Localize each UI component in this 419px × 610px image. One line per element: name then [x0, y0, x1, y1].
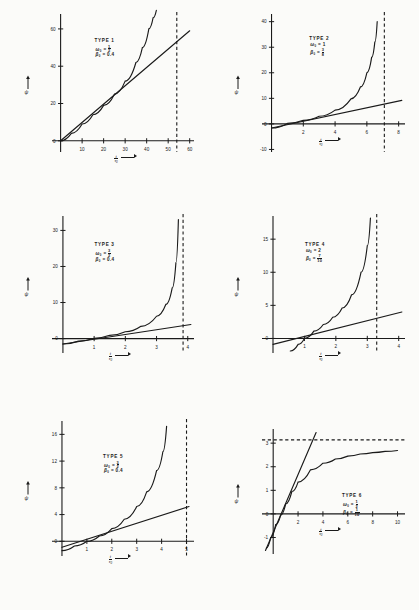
x-axis-label: tτ0 [109, 554, 131, 563]
svg-text:1: 1 [266, 488, 269, 493]
svg-text:2: 2 [302, 130, 305, 135]
panel-annotation-3: TYPE 3ω0 = 32β0 = 0.4 [95, 243, 115, 262]
svg-text:4: 4 [334, 130, 337, 135]
panel-title: TYPE 1 [95, 39, 115, 44]
svg-text:2: 2 [266, 464, 269, 469]
svg-text:10: 10 [80, 147, 86, 152]
svg-text:40: 40 [261, 19, 267, 24]
svg-text:3: 3 [266, 441, 269, 446]
panel-title: TYPE 5 [103, 455, 123, 460]
chart-panel-1: 1020304050600204060ψtτ0TYPE 1ω0 = 12β0 =… [0, 0, 210, 200]
svg-text:2: 2 [335, 344, 338, 349]
figure-panel-grid: 1020304050600204060ψtτ0TYPE 1ω0 = 12β0 =… [0, 0, 419, 610]
svg-text:4: 4 [54, 512, 57, 517]
svg-text:8: 8 [371, 520, 374, 525]
x-axis-label: tτ0 [319, 137, 341, 146]
y-axis-label: ψ [25, 89, 29, 95]
svg-text:4: 4 [186, 345, 189, 350]
svg-text:4: 4 [160, 547, 163, 552]
svg-text:40: 40 [50, 64, 56, 69]
x-axis-label: tτ0 [109, 352, 131, 361]
svg-text:5: 5 [265, 303, 268, 308]
svg-text:60: 60 [50, 27, 56, 32]
svg-text:3: 3 [155, 345, 158, 350]
y-axis-label: ψ [235, 89, 239, 95]
svg-text:30: 30 [261, 45, 267, 50]
y-axis-label: ψ [25, 291, 29, 297]
svg-text:0: 0 [264, 122, 267, 127]
panel-annotation-5: TYPE 5ω0 = 32β0 = 0.4 [103, 455, 123, 474]
svg-text:4: 4 [322, 520, 325, 525]
svg-text:0: 0 [266, 512, 269, 517]
svg-text:2: 2 [111, 547, 114, 552]
svg-text:0: 0 [53, 139, 56, 144]
svg-text:20: 20 [261, 70, 267, 75]
svg-text:20: 20 [50, 101, 56, 106]
svg-text:10: 10 [261, 96, 267, 101]
panel-annotation-1: TYPE 1ω0 = 12β0 = 0.4 [95, 39, 115, 58]
svg-text:60: 60 [187, 147, 193, 152]
svg-text:0: 0 [265, 336, 268, 341]
svg-text:2: 2 [124, 345, 127, 350]
svg-text:16: 16 [52, 432, 58, 437]
svg-text:10: 10 [395, 520, 401, 525]
svg-text:30: 30 [53, 228, 59, 233]
x-axis-label: tτ0 [319, 527, 341, 536]
svg-text:1: 1 [86, 547, 89, 552]
panel-title: TYPE 3 [95, 243, 115, 248]
svg-text:1: 1 [303, 344, 306, 349]
svg-text:12: 12 [52, 459, 58, 464]
svg-text:10: 10 [263, 270, 269, 275]
chart-panel-5: 123450481216ψtτ0TYPE 5ω0 = 32β0 = 0.4 [0, 405, 210, 610]
chart-panel-6: 246810-10123ψtτ0TYPE 6ω0 = 12β0 = 110 [210, 405, 419, 610]
svg-text:1: 1 [93, 345, 96, 350]
panel-title: TYPE 6 [342, 494, 362, 499]
panel-annotation-2: TYPE 2ω0 = 1β0 = 38 [309, 37, 329, 56]
svg-text:0: 0 [54, 539, 57, 544]
chart-panel-3: 12340102030ψtτ0TYPE 3ω0 = 32β0 = 0.4 [0, 200, 210, 405]
svg-text:3: 3 [135, 547, 138, 552]
chart-panel-2: 2468-10010203040ψtτ0TYPE 2ω0 = 1β0 = 38 [210, 0, 419, 200]
svg-text:-1: -1 [264, 535, 269, 540]
x-axis-label: tτ0 [114, 154, 136, 163]
svg-text:2: 2 [297, 520, 300, 525]
svg-text:15: 15 [263, 237, 269, 242]
svg-text:4: 4 [397, 344, 400, 349]
svg-text:-10: -10 [260, 147, 267, 152]
panel-annotation-6: TYPE 6ω0 = 12β0 = 110 [342, 494, 362, 516]
svg-text:8: 8 [54, 486, 57, 491]
svg-text:8: 8 [397, 130, 400, 135]
svg-text:30: 30 [123, 147, 129, 152]
svg-text:10: 10 [53, 300, 59, 305]
x-axis-label: tτ0 [319, 351, 341, 360]
svg-text:20: 20 [53, 264, 59, 269]
svg-text:6: 6 [366, 130, 369, 135]
svg-text:50: 50 [166, 147, 172, 152]
chart-panel-4: 1234051015ψtτ0TYPE 4ω0 = 2β0 = 710 [210, 200, 419, 405]
svg-text:0: 0 [55, 336, 58, 341]
y-axis-label: ψ [235, 498, 239, 504]
svg-text:3: 3 [366, 344, 369, 349]
y-axis-label: ψ [25, 495, 29, 501]
svg-text:20: 20 [101, 147, 107, 152]
panel-annotation-4: TYPE 4ω0 = 2β0 = 710 [305, 243, 325, 262]
svg-text:6: 6 [347, 520, 350, 525]
y-axis-label: ψ [235, 291, 239, 297]
svg-text:40: 40 [144, 147, 150, 152]
